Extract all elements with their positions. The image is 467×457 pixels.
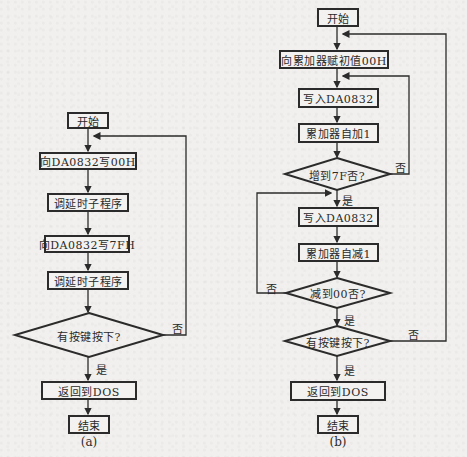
a-return-dos-label: 返回到DOS <box>58 383 119 399</box>
b-start-node: 开始 <box>317 8 359 27</box>
b-write-da-node-1: 写入DA0832 <box>298 88 379 108</box>
a-write-7fh-node: 向DA0832写7FH <box>44 235 130 253</box>
a-delay-node-2: 调延时子程序 <box>47 271 129 290</box>
b-write-da-node-2: 写入DA0832 <box>298 207 379 227</box>
b-decision3-no-label: 否 <box>408 326 419 342</box>
a-end-label: 结束 <box>78 417 101 433</box>
b-acc-dec-label: 累加器自减1 <box>306 245 371 261</box>
a-write-00h-node: 向DA0832写00H <box>39 152 137 170</box>
a-write-00h-label: 向DA0832写00H <box>40 153 136 169</box>
a-yes-label: 是 <box>96 361 107 377</box>
b-decision2-yes-label: 是 <box>344 312 355 328</box>
b-reached-7f-decision: 增到7F否? <box>309 167 366 183</box>
b-decision1-yes-label: 是 <box>342 192 353 208</box>
b-start-label: 开始 <box>327 10 350 26</box>
b-decision2-no-label: 否 <box>266 280 277 296</box>
a-delay-label-1: 调延时子程序 <box>54 195 123 211</box>
b-acc-inc-node: 累加器自加1 <box>298 123 379 143</box>
b-acc-dec-node: 累加器自减1 <box>298 243 379 262</box>
b-caption: (b) <box>329 435 346 449</box>
a-return-dos-node: 返回到DOS <box>41 381 137 400</box>
b-return-dos-label: 返回到DOS <box>307 383 368 399</box>
b-key-pressed-decision: 有按键按下? <box>306 334 370 350</box>
b-end-node: 结束 <box>317 415 359 434</box>
a-end-node: 结束 <box>68 415 110 434</box>
a-start-node: 开始 <box>67 112 109 129</box>
b-decision1-no-label: 否 <box>395 159 406 175</box>
a-key-pressed-decision: 有按键按下? <box>57 328 121 344</box>
b-init-acc-node: 向累加器赋初值00H <box>279 50 389 69</box>
b-init-acc-label: 向累加器赋初值00H <box>281 52 387 68</box>
b-end-label: 结束 <box>327 417 350 433</box>
a-no-label: 否 <box>172 320 183 336</box>
b-decision3-yes-label: 是 <box>344 362 355 378</box>
a-delay-node-1: 调延时子程序 <box>47 193 129 212</box>
b-reached-00-decision: 减到00否? <box>310 285 366 301</box>
b-acc-inc-label: 累加器自加1 <box>306 125 371 141</box>
b-write-da-label-2: 写入DA0832 <box>303 209 374 225</box>
a-start-label: 开始 <box>77 113 100 129</box>
a-caption: (a) <box>81 435 98 449</box>
b-write-da-label-1: 写入DA0832 <box>303 90 374 106</box>
b-return-dos-node: 返回到DOS <box>290 381 386 401</box>
a-write-7fh-label: 向DA0832写7FH <box>39 236 135 252</box>
a-delay-label-2: 调延时子程序 <box>54 273 123 289</box>
